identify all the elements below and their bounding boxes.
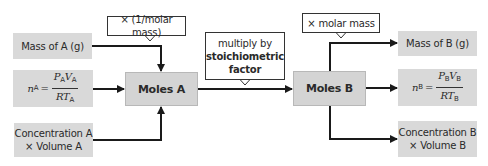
moles-b-label: Moles B — [306, 82, 353, 95]
moles-a-label: Moles A — [138, 83, 185, 96]
gas-law-b-box: nB= PBVB RTB — [398, 69, 477, 106]
inverse-molar-mass-callout: × (1/molar mass) — [107, 16, 186, 36]
concentration-b-line2: × Volume B — [409, 139, 466, 152]
concentration-a-line1: Concentration A — [15, 127, 93, 140]
moles-b-box: Moles B — [293, 71, 366, 106]
gas-law-a-box: nA= PAVA RTA — [13, 70, 93, 107]
gas-law-a-formula: nA= PAVA RTA — [28, 70, 79, 107]
mass-of-b-box: Mass of B (g) — [398, 31, 477, 56]
concentration-a-line2: × Volume A — [25, 140, 82, 153]
molar-mass-callout: × molar mass — [302, 13, 380, 33]
stoichiometric-factor-callout: multiply by stoichiometric factor — [205, 32, 285, 80]
concentration-b-box: Concentration B × Volume B — [398, 121, 477, 157]
mass-of-a-box: Mass of A (g) — [13, 33, 92, 59]
concentration-b-line1: Concentration B — [399, 126, 477, 139]
mass-of-b-label: Mass of B (g) — [406, 37, 469, 50]
mass-of-a-label: Mass of A (g) — [21, 40, 84, 53]
moles-a-box: Moles A — [125, 72, 198, 106]
concentration-a-box: Concentration A × Volume A — [14, 123, 93, 157]
gas-law-b-formula: nB= PBVB RTB — [412, 69, 463, 106]
